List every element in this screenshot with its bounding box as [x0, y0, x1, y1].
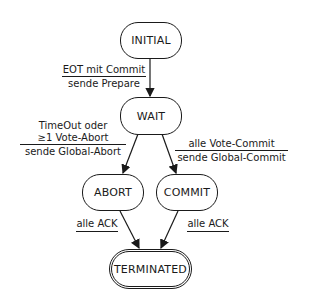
state-initial-label: INITIAL [131, 34, 171, 47]
state-terminated-label: TERMINATED [114, 263, 187, 276]
state-commit-label: COMMIT [164, 186, 210, 199]
label-initial-wait-condition: EOT mit Commit [62, 64, 146, 76]
label-abort-terminated: alle ACK [72, 218, 122, 232]
state-initial: INITIAL [120, 22, 182, 59]
label-commit-terminated-condition: alle ACK [187, 218, 228, 232]
label-wait-commit: alle Vote-Commit sende Global-Commit [175, 138, 288, 164]
label-wait-abort-action: sende Global-Abort [20, 144, 126, 158]
edge-wait-commit [162, 134, 176, 173]
label-wait-commit-action: sende Global-Commit [175, 150, 288, 164]
state-abort-label: ABORT [94, 186, 132, 199]
label-wait-abort-condition-2: ≥1 Vote-Abort [20, 132, 126, 144]
label-initial-wait-action: sende Prepare [62, 76, 146, 90]
label-wait-commit-condition: alle Vote-Commit [175, 138, 288, 150]
state-wait: WAIT [120, 97, 182, 135]
label-abort-terminated-condition: alle ACK [76, 218, 117, 232]
state-wait-label: WAIT [137, 110, 166, 123]
state-abort: ABORT [82, 174, 144, 211]
edge-commit-terminated [161, 211, 178, 248]
edge-abort-terminated [120, 211, 139, 248]
state-commit: COMMIT [156, 174, 218, 211]
label-commit-terminated: alle ACK [183, 218, 233, 232]
state-terminated: TERMINATED [109, 249, 192, 289]
label-wait-abort-condition-1: TimeOut oder [20, 120, 126, 132]
label-wait-abort: TimeOut oder ≥1 Vote-Abort sende Global-… [20, 120, 126, 158]
label-initial-wait: EOT mit Commit sende Prepare [62, 64, 146, 90]
